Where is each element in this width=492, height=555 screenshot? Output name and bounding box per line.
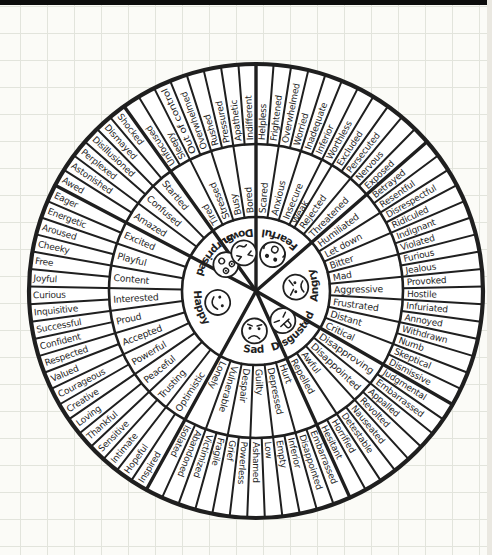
middle-emotion-label: Aggressive [334, 283, 384, 295]
middle-emotion-label: Bored [242, 186, 255, 213]
outer-emotion-label: Curious [33, 290, 66, 301]
outer-emotion-label: Ashamed [251, 442, 261, 483]
outer-emotion-label: Hostile [407, 289, 437, 300]
scanned-page: { "page": { "top_edge_color": "#0d0d0d",… [0, 0, 492, 555]
outer-emotion-label: Helpless [257, 103, 268, 140]
middle-emotion-label: Guilty [254, 369, 266, 396]
outer-emotion-label: Low [263, 441, 274, 459]
outer-emotion-label: Joyful [32, 273, 57, 284]
feelings-wheel: ScaredHelplessFrightenedAnxiousOverwhelm… [0, 0, 492, 555]
sad-face [241, 318, 267, 344]
outer-emotion-label: Indifferent [243, 95, 255, 141]
